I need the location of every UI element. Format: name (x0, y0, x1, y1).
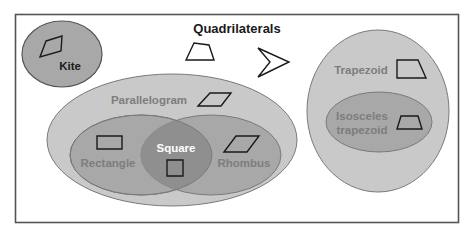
square-label: Square (157, 142, 196, 154)
rhombus-label: Rhombus (217, 157, 270, 169)
kite-label: Kite (59, 60, 81, 72)
diagram-title: Quadrilaterals (193, 21, 280, 36)
rectangle-label: Rectangle (81, 157, 136, 169)
isosceles-trapezoid-label-line2: trapezoid (336, 124, 387, 136)
kite-set: Kite (22, 21, 102, 87)
isosceles-trapezoid-set: Isosceles trapezoid (326, 92, 432, 152)
quadrilaterals-venn-diagram: Quadrilaterals Kite Parallelogram Rectan… (0, 0, 476, 236)
isosceles-trapezoid-ellipse (326, 92, 432, 152)
parallelogram-label: Parallelogram (111, 94, 187, 106)
kite-ellipse (22, 21, 102, 87)
trapezoid-label: Trapezoid (334, 64, 388, 76)
isosceles-trapezoid-label-line1: Isosceles (336, 110, 388, 122)
